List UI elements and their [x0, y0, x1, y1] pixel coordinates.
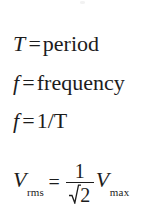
operator-equals: = [25, 31, 42, 56]
fraction-numerator: 1 [75, 161, 85, 182]
symbol-V: V [96, 167, 109, 192]
formula-sheet: T=period f=frequency f=1/T Vrms = 1 2 [0, 0, 161, 208]
symbol-V-max: Vmax [96, 169, 129, 194]
fraction-denominator: 2 [69, 183, 90, 204]
word-period: period [43, 31, 99, 56]
symbol-V: V [13, 167, 26, 192]
formula-frequency-equation: f=1/T [13, 110, 67, 132]
fraction-one-over-root-two: 1 2 [66, 161, 94, 204]
word-frequency: frequency [37, 70, 125, 95]
operator-equals: = [49, 172, 60, 192]
scan-speck-artifact [80, 1, 85, 4]
expression-one-over-T: 1/T [37, 108, 68, 133]
subscript-rms: rms [27, 186, 44, 198]
formula-period-definition: T=period [13, 33, 99, 55]
subscript-max: max [110, 186, 130, 198]
symbol-V-rms: Vrms [13, 169, 44, 194]
radicand-two: 2 [80, 185, 90, 205]
rms-voltage-expression: Vrms = 1 2 Vmax [13, 160, 129, 203]
operator-equals: = [19, 70, 36, 95]
operator-equals: = [19, 108, 36, 133]
formula-frequency-definition: f=frequency [13, 72, 125, 94]
formula-rms-voltage: Vrms = 1 2 Vmax [13, 160, 129, 203]
symbol-T: T [13, 31, 25, 56]
